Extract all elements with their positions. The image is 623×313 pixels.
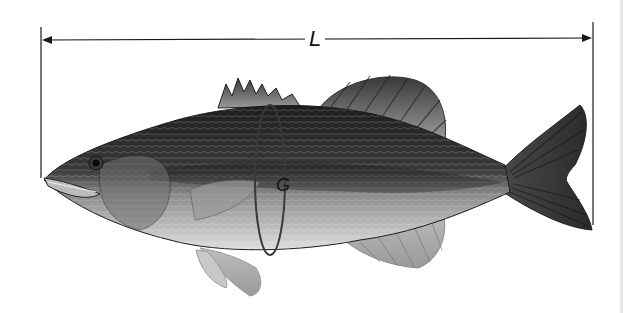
girth-label: G	[276, 175, 290, 195]
arrowhead-right-icon	[582, 34, 592, 42]
caudal-fin	[500, 105, 592, 230]
fish-diagram: L G	[0, 0, 623, 313]
arrowhead-left-icon	[42, 36, 52, 44]
dorsal-spiny-fin	[218, 78, 300, 108]
length-label: L	[305, 27, 325, 51]
